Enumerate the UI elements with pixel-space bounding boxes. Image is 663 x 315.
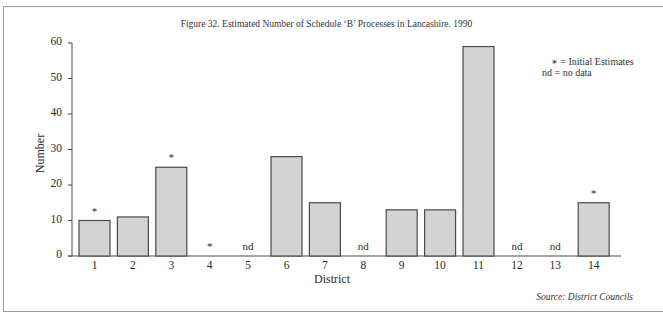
initial-estimate-marker: *	[80, 205, 110, 217]
x-tick-label: 7	[310, 259, 340, 271]
x-tick-label: 6	[272, 259, 302, 271]
y-tick-label: 60	[32, 35, 62, 47]
no-data-note: nd	[348, 240, 378, 252]
bar-district-2	[117, 217, 148, 256]
no-data-note: nd	[233, 240, 263, 252]
no-data-note: nd	[540, 240, 570, 252]
bar-district-6	[271, 157, 302, 256]
x-tick-label: 11	[464, 259, 494, 271]
initial-estimate-marker: *	[195, 240, 225, 252]
y-tick-label: 0	[32, 248, 62, 260]
x-tick-label: 4	[195, 259, 225, 271]
y-tick-label: 20	[32, 177, 62, 189]
bar-district-7	[309, 203, 340, 256]
x-tick-label: 3	[156, 259, 186, 271]
initial-estimate-marker: *	[156, 151, 186, 163]
x-tick-label: 13	[540, 259, 570, 271]
bar-district-11	[463, 47, 494, 256]
x-tick-label: 10	[425, 259, 455, 271]
x-tick-label: 1	[80, 259, 110, 271]
bar-district-3	[156, 167, 187, 256]
bar-district-9	[386, 210, 417, 256]
x-tick-label: 5	[233, 259, 263, 271]
y-tick-label: 30	[32, 142, 62, 154]
bar-district-14	[578, 203, 609, 256]
bar-district-1	[79, 221, 110, 257]
y-tick-label: 40	[32, 106, 62, 118]
x-tick-label: 14	[579, 259, 609, 271]
x-tick-label: 12	[502, 259, 532, 271]
x-tick-label: 2	[118, 259, 148, 271]
y-tick-label: 50	[32, 71, 62, 83]
initial-estimate-marker: *	[579, 187, 609, 199]
x-tick-label: 9	[387, 259, 417, 271]
no-data-note: nd	[502, 240, 532, 252]
x-tick-label: 8	[348, 259, 378, 271]
y-tick-label: 10	[32, 213, 62, 225]
bar-district-10	[425, 210, 456, 256]
